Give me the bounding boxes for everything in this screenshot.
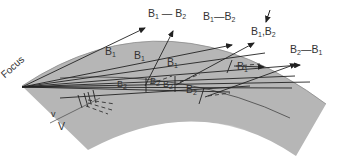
ray-label-b1: B1: [105, 46, 116, 58]
velocity-label-upper: V: [58, 121, 65, 132]
label-b1-b2-top-left: B1 — B2: [148, 8, 186, 20]
ray-label-b2: B2: [163, 80, 173, 90]
ray-label-b2: B2: [150, 77, 160, 87]
ray-label-b2: B2: [186, 84, 197, 96]
label-b1-b2-top-mid: B1—B2: [203, 11, 235, 23]
pointer-arrow: [266, 10, 270, 22]
velocity-label-lower: v: [51, 110, 56, 119]
ray-label-b1: B1: [167, 57, 178, 69]
ray-label-b1: B1: [237, 61, 248, 73]
label-b1-comma-b2: B1,B2: [251, 26, 276, 38]
label-b2-b1-right: B2—B1: [290, 44, 322, 56]
ray-label-b1: B1: [134, 50, 145, 62]
ray-label-b2: B2: [117, 80, 127, 90]
